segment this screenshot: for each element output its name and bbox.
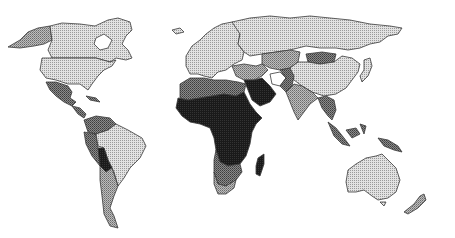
region-southeast-asia	[318, 96, 336, 120]
region-new-zealand	[404, 194, 426, 214]
world-choropleth-map	[0, 0, 455, 238]
region-middle-east	[232, 64, 268, 80]
region-canada	[48, 18, 132, 62]
region-madagascar	[256, 154, 264, 176]
region-tasmania	[380, 202, 386, 206]
map-canvas	[0, 0, 455, 238]
north-america	[8, 18, 184, 118]
region-iceland	[172, 28, 184, 34]
region-alaska	[8, 26, 52, 48]
region-caribbean	[86, 96, 100, 102]
south-america	[84, 116, 146, 228]
region-central-america	[72, 106, 86, 118]
region-papua-new-guinea	[378, 138, 402, 152]
region-sub-saharan-africa	[176, 92, 262, 166]
region-indonesia	[328, 122, 366, 146]
region-russia	[232, 16, 402, 56]
region-mexico	[46, 82, 76, 106]
oceania	[328, 122, 426, 214]
region-australia	[346, 154, 400, 200]
region-japan	[360, 58, 372, 82]
